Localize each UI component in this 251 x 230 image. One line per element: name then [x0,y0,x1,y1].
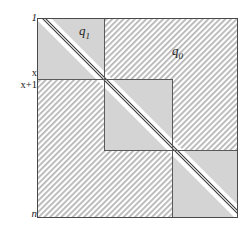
matrix-partition-figure: 1 x x+1 n q1 q0 [0,0,251,230]
region-label-q1: q1 [79,24,90,41]
quadrant-fills [30,5,246,221]
row-label-x: x [32,68,37,79]
region-label-q0: q0 [172,44,183,61]
region-label-q1-sub: 1 [86,31,91,41]
partition-svg [0,0,251,230]
region-label-q0-sub: 0 [179,51,184,61]
row-label-x-plus-1: x+1 [21,80,37,91]
row-label-1: 1 [32,12,38,23]
row-label-n: n [32,208,38,219]
